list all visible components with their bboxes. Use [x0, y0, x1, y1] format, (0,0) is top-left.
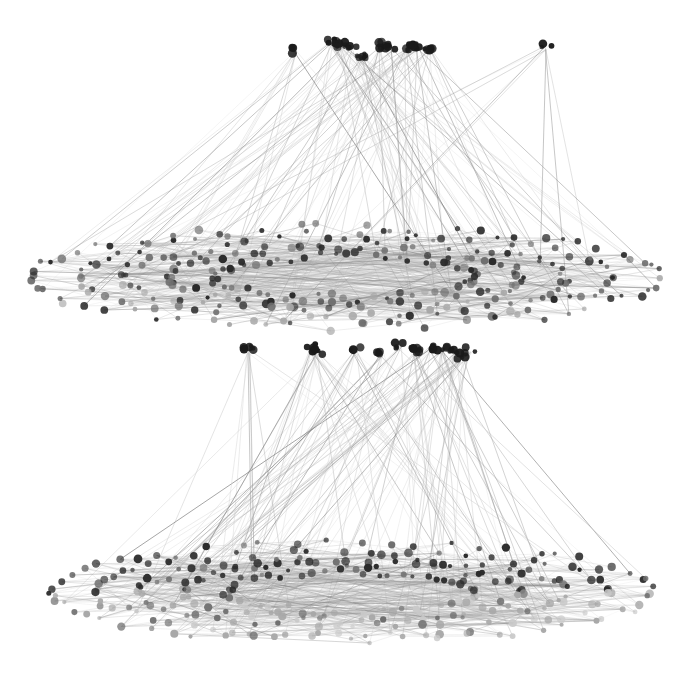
network-graph-figure: Two-layer hierarchical network graph: [0, 0, 677, 679]
network-graph-canvas: [0, 0, 677, 679]
